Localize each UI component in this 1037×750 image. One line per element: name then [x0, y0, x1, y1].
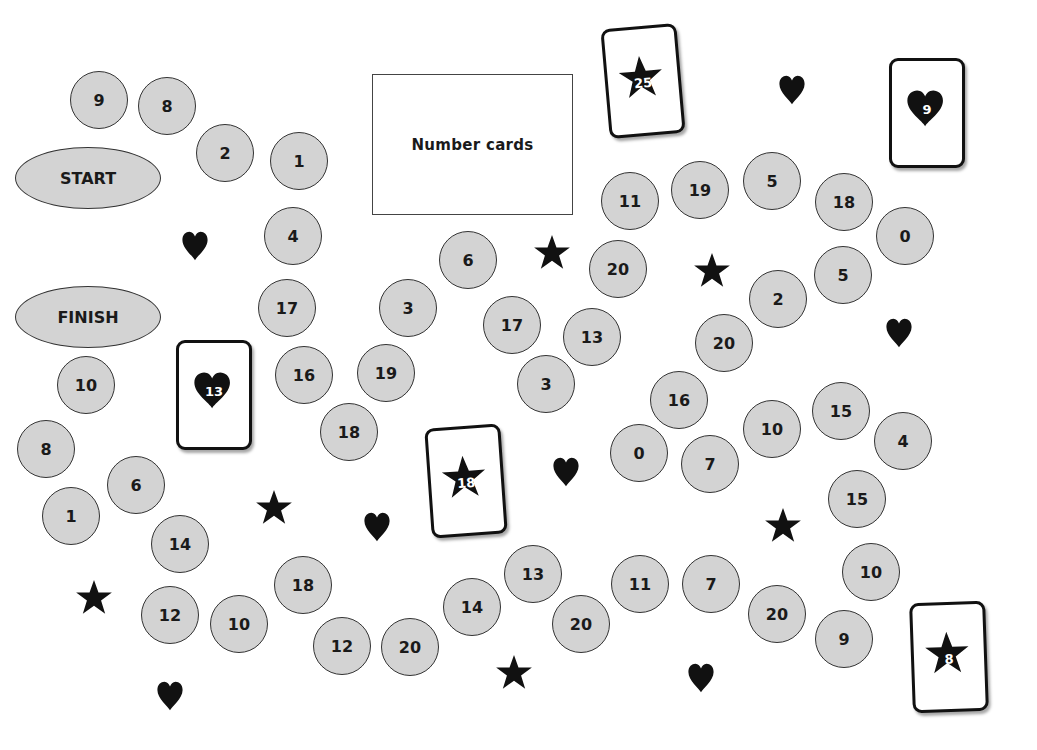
finish-space[interactable]: FINISH: [15, 286, 161, 348]
track-space[interactable]: 7: [682, 555, 740, 613]
track-space[interactable]: 18: [815, 173, 873, 231]
space-number: 5: [837, 266, 848, 285]
track-space[interactable]: 11: [601, 172, 659, 230]
space-number: 10: [228, 615, 250, 634]
track-space[interactable]: 1: [42, 487, 100, 545]
heart-icon: [777, 73, 807, 107]
space-number: 13: [522, 565, 544, 584]
heart-icon: [180, 229, 210, 263]
number-cards-deck[interactable]: Number cards: [372, 74, 573, 215]
space-number: 2: [219, 144, 230, 163]
space-number: 14: [461, 598, 483, 617]
track-space[interactable]: 0: [876, 207, 934, 265]
track-space[interactable]: 14: [151, 515, 209, 573]
space-number: 7: [704, 455, 715, 474]
game-board: Number cards START FINISH 98214171619183…: [0, 0, 1037, 750]
track-space[interactable]: 9: [70, 71, 128, 129]
track-space[interactable]: 0: [610, 424, 668, 482]
space-number: 1: [65, 507, 76, 526]
space-number: 20: [766, 605, 788, 624]
heart-icon: [884, 316, 914, 350]
finish-label: FINISH: [57, 308, 118, 327]
track-space[interactable]: 10: [743, 400, 801, 458]
track-space[interactable]: 14: [443, 578, 501, 636]
track-space[interactable]: 13: [563, 308, 621, 366]
track-space[interactable]: 5: [814, 246, 872, 304]
space-number: 20: [607, 260, 629, 279]
track-space[interactable]: 20: [695, 314, 753, 372]
track-space[interactable]: 16: [275, 346, 333, 404]
space-number: 10: [75, 376, 97, 395]
space-number: 20: [570, 615, 592, 634]
heart-icon: [551, 455, 581, 489]
heart-card[interactable]: 9: [889, 58, 965, 168]
track-space[interactable]: 10: [57, 356, 115, 414]
track-space[interactable]: 19: [357, 344, 415, 402]
space-number: 3: [540, 375, 551, 394]
star-icon: [255, 488, 293, 526]
track-space[interactable]: 8: [138, 77, 196, 135]
space-number: 10: [860, 563, 882, 582]
space-number: 15: [846, 490, 868, 509]
space-number: 15: [830, 402, 852, 421]
space-number: 13: [581, 328, 603, 347]
track-space[interactable]: 7: [681, 435, 739, 493]
space-number: 9: [93, 91, 104, 110]
track-space[interactable]: 4: [874, 412, 932, 470]
track-space[interactable]: 20: [552, 595, 610, 653]
track-space[interactable]: 2: [749, 270, 807, 328]
deck-label: Number cards: [411, 136, 533, 154]
space-number: 1: [293, 152, 304, 171]
track-space[interactable]: 12: [141, 586, 199, 644]
star-card[interactable]: 8: [909, 601, 989, 714]
card-value: 13: [179, 384, 249, 399]
track-space[interactable]: 18: [320, 403, 378, 461]
star-icon: [495, 653, 533, 691]
track-space[interactable]: 3: [379, 279, 437, 337]
track-space[interactable]: 5: [743, 152, 801, 210]
track-space[interactable]: 19: [671, 161, 729, 219]
star-icon: [764, 506, 802, 544]
track-space[interactable]: 20: [589, 240, 647, 298]
track-space[interactable]: 11: [611, 555, 669, 613]
space-number: 17: [501, 316, 523, 335]
start-space[interactable]: START: [15, 147, 161, 209]
space-number: 8: [161, 97, 172, 116]
heart-icon: [686, 661, 716, 695]
space-number: 18: [292, 576, 314, 595]
track-space[interactable]: 8: [17, 420, 75, 478]
track-space[interactable]: 2: [196, 124, 254, 182]
space-number: 10: [761, 420, 783, 439]
track-space[interactable]: 20: [381, 618, 439, 676]
track-space[interactable]: 6: [439, 231, 497, 289]
star-card[interactable]: 18: [424, 423, 507, 538]
track-space[interactable]: 16: [650, 371, 708, 429]
star-icon: [75, 578, 113, 616]
track-space[interactable]: 13: [504, 545, 562, 603]
space-number: 6: [462, 251, 473, 270]
heart-icon: [155, 679, 185, 713]
track-space[interactable]: 10: [842, 543, 900, 601]
track-space[interactable]: 1: [270, 132, 328, 190]
track-space[interactable]: 4: [264, 207, 322, 265]
track-space[interactable]: 12: [313, 617, 371, 675]
space-number: 3: [402, 299, 413, 318]
space-number: 4: [897, 432, 908, 451]
track-space[interactable]: 9: [815, 610, 873, 668]
space-number: 2: [772, 290, 783, 309]
card-value: 9: [892, 102, 962, 117]
space-number: 18: [338, 423, 360, 442]
space-number: 20: [713, 334, 735, 353]
track-space[interactable]: 10: [210, 595, 268, 653]
track-space[interactable]: 20: [748, 585, 806, 643]
track-space[interactable]: 3: [517, 355, 575, 413]
track-space[interactable]: 18: [274, 556, 332, 614]
track-space[interactable]: 17: [258, 279, 316, 337]
star-card[interactable]: 25: [600, 23, 685, 139]
track-space[interactable]: 6: [107, 456, 165, 514]
track-space[interactable]: 15: [812, 382, 870, 440]
heart-card[interactable]: 13: [176, 340, 252, 450]
track-space[interactable]: 15: [828, 470, 886, 528]
space-number: 16: [293, 366, 315, 385]
track-space[interactable]: 17: [483, 296, 541, 354]
